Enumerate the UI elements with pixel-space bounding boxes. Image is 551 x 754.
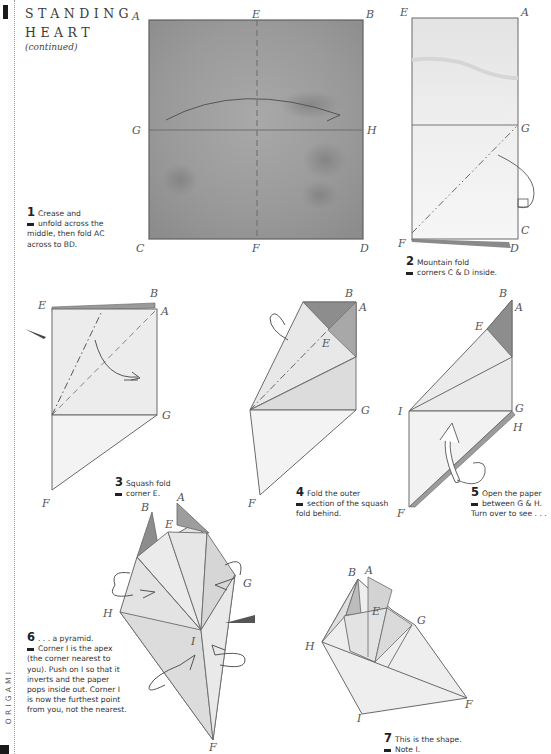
label-H: H: [102, 607, 113, 620]
label-E: E: [399, 6, 408, 19]
step-6-instruction: 6. . . a pyramid. Corner I is the apex (…: [27, 632, 127, 716]
label-A: A: [358, 301, 367, 314]
bottom-block-marker: [0, 745, 9, 754]
step-4-instruction: 4Fold the outer section of the squash fo…: [296, 487, 396, 520]
page-title: STANDING HEART: [25, 4, 133, 42]
title-line-1: STANDING: [25, 4, 133, 23]
label-H: H: [366, 124, 377, 137]
label-I: I: [190, 635, 196, 648]
step-number: 6: [27, 630, 35, 644]
label-B: B: [140, 501, 149, 514]
label-E: E: [371, 605, 380, 618]
label-D: D: [359, 242, 369, 255]
label-G: G: [521, 122, 530, 135]
diagram-step-3: E B A G F: [20, 285, 200, 490]
diagram-step-1: A E B G H C F D: [130, 0, 390, 250]
diagram-step-4: B A E G F: [230, 285, 390, 510]
label-G: G: [162, 409, 171, 422]
label-B: B: [347, 566, 356, 579]
label-C: C: [136, 242, 145, 255]
step-number: 5: [471, 485, 479, 499]
diagram-step-7: B A E G H I F: [295, 550, 505, 720]
label-E: E: [164, 518, 173, 531]
step-number: 4: [296, 485, 304, 499]
step-7-instruction: 7This is the shape. Note I.: [384, 733, 494, 754]
label-G: G: [132, 124, 141, 137]
step-bullet: [296, 503, 303, 506]
label-H: H: [512, 421, 523, 434]
step-bullet: [27, 648, 34, 651]
label-C: C: [521, 224, 530, 237]
label-F: F: [396, 507, 405, 520]
step-bullet: [471, 503, 478, 506]
step-1-instruction: 1Crease and unfold across the middle, th…: [27, 207, 127, 250]
step-number: 7: [384, 731, 392, 745]
label-G: G: [515, 402, 524, 415]
label-E: E: [474, 320, 483, 333]
diagram-step-2: E A G C F D: [390, 0, 551, 255]
label-E: E: [321, 337, 330, 350]
step-number: 1: [27, 205, 35, 219]
label-B: B: [498, 287, 507, 300]
label-F: F: [208, 741, 217, 754]
label-I: I: [397, 405, 403, 418]
label-D: D: [509, 242, 519, 255]
label-E: E: [37, 299, 46, 312]
label-H: H: [304, 640, 315, 653]
step-bullet: [27, 223, 34, 226]
label-F: F: [41, 497, 50, 510]
label-I: I: [356, 712, 362, 725]
label-G: G: [361, 404, 370, 417]
gutter-dotted-rule: [14, 0, 15, 754]
label-A: A: [514, 301, 523, 314]
label-A: A: [520, 6, 529, 19]
label-F: F: [464, 698, 473, 711]
section-side-label: ORIGAMI: [4, 667, 13, 727]
step-bullet: [406, 272, 413, 275]
label-G: G: [417, 614, 426, 627]
label-B: B: [149, 287, 158, 300]
label-A: A: [364, 564, 373, 577]
top-block-marker: [3, 5, 8, 19]
label-G: G: [243, 577, 252, 590]
step-2-instruction: 2Mountain fold corners C & D inside.: [406, 256, 516, 278]
page-subtitle: (continued): [25, 42, 77, 52]
label-A: A: [176, 491, 185, 504]
label-A: A: [131, 10, 140, 23]
label-E: E: [251, 8, 260, 21]
step-number: 2: [406, 254, 414, 268]
label-B: B: [344, 287, 353, 300]
label-F: F: [397, 237, 406, 250]
title-line-2: HEART: [25, 23, 133, 42]
step-5-instruction: 5Open the paper between G & H. Turn over…: [471, 487, 551, 520]
label-F: F: [251, 242, 260, 255]
label-A: A: [160, 305, 169, 318]
label-B: B: [365, 8, 374, 21]
step-bullet: [384, 749, 391, 752]
diagram-step-5: B A E I G H F: [395, 285, 551, 510]
step-number: 3: [115, 475, 123, 489]
